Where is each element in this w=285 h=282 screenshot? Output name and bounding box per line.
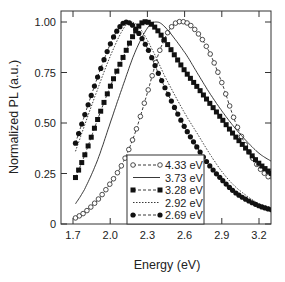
y-tick-label: 0.25 <box>35 168 56 180</box>
y-tick-label: 0.75 <box>35 67 56 79</box>
x-tick-label: 2.3 <box>140 229 155 241</box>
x-tick-label: 2.9 <box>214 229 229 241</box>
legend-label: 3.73 eV <box>165 172 204 184</box>
legend-label: 4.33 eV <box>165 159 204 171</box>
x-tick-label: 2.0 <box>103 229 118 241</box>
legend-label: 3.28 eV <box>165 184 204 196</box>
x-tick-labels: 1.72.02.32.62.93.2 <box>65 229 266 241</box>
pl-chart: 1.72.02.32.62.93.2 00.250.500.751.00 4.3… <box>0 0 285 282</box>
legend: 4.33 eV3.73 eV3.28 eV2.92 eV2.69 eV <box>127 155 204 224</box>
x-axis-label: Energy (eV) <box>134 258 201 272</box>
x-tick-label: 3.2 <box>251 229 266 241</box>
x-tick-label: 2.6 <box>177 229 192 241</box>
y-tick-label: 0 <box>50 218 56 230</box>
legend-label: 2.92 eV <box>165 197 204 209</box>
legend-label: 2.69 eV <box>165 209 204 221</box>
y-tick-label: 0.50 <box>35 117 56 129</box>
y-axis-label: Normalized PL (a.u.) <box>7 60 21 174</box>
y-tick-label: 1.00 <box>35 16 56 28</box>
x-tick-label: 1.7 <box>65 229 80 241</box>
y-tick-labels: 00.250.500.751.00 <box>35 16 56 230</box>
